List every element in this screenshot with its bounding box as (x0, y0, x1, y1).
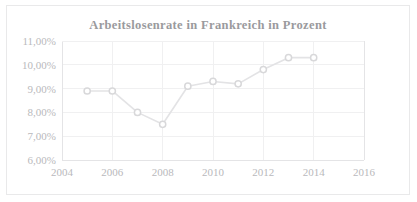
data-point-marker (235, 81, 241, 87)
x-axis-tick-label: 2004 (51, 166, 73, 178)
x-axis-tick-label: 2012 (252, 166, 274, 178)
x-axis-tick-label: 2010 (202, 166, 224, 178)
data-point-marker (311, 55, 317, 61)
data-point-marker (285, 55, 291, 61)
y-axis-tick-label: 8,00% (8, 106, 56, 118)
chart-plot-area: 6,00%7,00%8,00%9,00%10,00%11,00%20042006… (0, 0, 417, 202)
data-point-marker (134, 109, 140, 115)
data-point-marker (84, 88, 90, 94)
x-axis-tick-label: 2008 (152, 166, 174, 178)
data-point-marker (185, 83, 191, 89)
data-point-marker (160, 121, 166, 127)
data-series-line (87, 58, 314, 125)
x-axis-tick-label: 2014 (303, 166, 325, 178)
y-axis-tick-label: 11,00% (8, 35, 56, 47)
y-axis-tick-label: 10,00% (8, 59, 56, 71)
data-point-marker (109, 88, 115, 94)
x-axis-tick-label: 2016 (353, 166, 375, 178)
data-point-marker (260, 66, 266, 72)
y-axis-tick-label: 9,00% (8, 83, 56, 95)
y-axis-tick-label: 6,00% (8, 154, 56, 166)
data-point-marker (210, 78, 216, 84)
y-axis-tick-label: 7,00% (8, 130, 56, 142)
x-axis-tick-label: 2006 (101, 166, 123, 178)
